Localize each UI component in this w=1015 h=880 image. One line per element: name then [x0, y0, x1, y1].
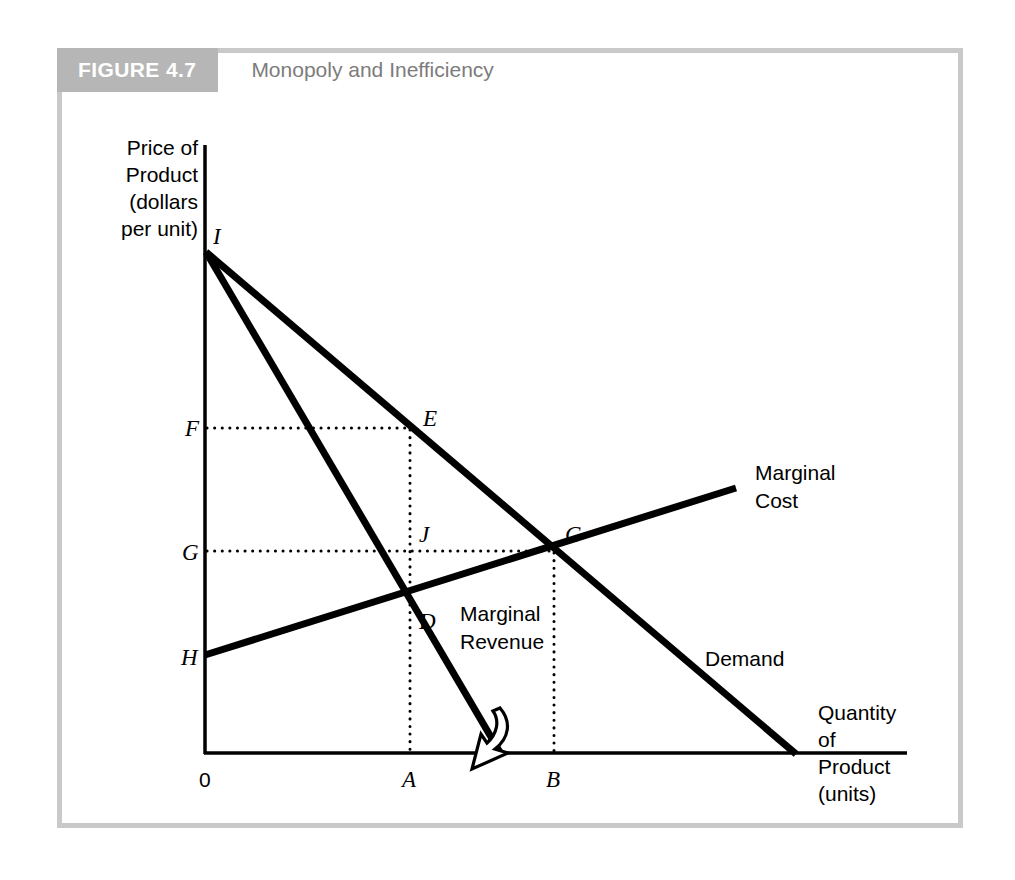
- point-label-H: H: [180, 645, 199, 670]
- demand-label: Demand: [705, 647, 784, 670]
- figure-page: FIGURE 4.7 Monopoly and Inefficiency: [0, 0, 1015, 880]
- guide-lines-group: [207, 428, 554, 751]
- x-axis-title-line-1: Quantity: [818, 701, 897, 724]
- y-axis-title-line-2: Product: [126, 163, 199, 186]
- x-axis-title-line-2: of: [818, 728, 836, 751]
- point-label-G: G: [182, 540, 199, 565]
- curves-group: [205, 252, 796, 754]
- point-label-D: D: [418, 609, 436, 634]
- x-axis-title-line-3: Product: [818, 755, 891, 778]
- point-label-A: A: [400, 767, 417, 792]
- point-label-F: F: [184, 416, 200, 441]
- monopoly-inefficiency-chart: Price of Product (dollars per unit) Quan…: [57, 48, 963, 828]
- y-axis-title-line-1: Price of: [127, 136, 198, 159]
- marginal-revenue-curve: [206, 252, 501, 754]
- point-label-E: E: [422, 406, 437, 431]
- point-label-I: I: [212, 224, 222, 249]
- marginal-cost-label-line-1: Marginal: [755, 461, 836, 484]
- point-label-J: J: [419, 522, 431, 547]
- curve-labels-group: Marginal Cost Demand Marginal Revenue: [460, 461, 836, 670]
- y-axis-title: Price of Product (dollars per unit): [121, 136, 198, 240]
- axes-group: [204, 145, 907, 754]
- y-axis-title-line-4: per unit): [121, 217, 198, 240]
- point-label-C: C: [565, 522, 581, 547]
- marginal-revenue-label-line-1: Marginal: [460, 602, 541, 625]
- marginal-cost-label-line-2: Cost: [755, 489, 798, 512]
- origin-label: 0: [199, 768, 211, 791]
- marginal-revenue-label-line-2: Revenue: [460, 630, 544, 653]
- point-label-B: B: [546, 767, 560, 792]
- demand-curve: [206, 252, 796, 754]
- y-axis-title-line-3: (dollars: [129, 190, 198, 213]
- x-axis-title-line-4: (units): [818, 782, 876, 805]
